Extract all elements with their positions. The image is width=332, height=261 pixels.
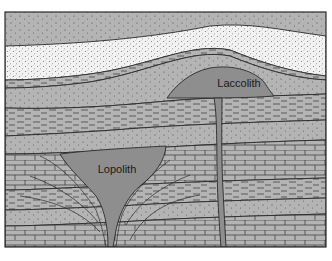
- laccolith-label: Laccolith: [217, 77, 260, 89]
- geologic-cross-section: Laccolith Lopolith: [0, 0, 332, 261]
- lopolith-label: Lopolith: [98, 163, 137, 175]
